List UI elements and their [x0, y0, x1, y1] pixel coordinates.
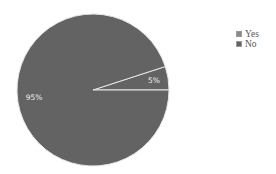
legend: Yes No: [236, 29, 259, 49]
legend-label-yes: Yes: [245, 29, 259, 39]
legend-swatch-yes: [236, 31, 242, 37]
slice-label-yes: 5%: [148, 76, 160, 85]
slice-label-no: 95%: [26, 93, 43, 102]
pie-slices: [17, 14, 169, 166]
pie-chart: 5%95%: [0, 0, 276, 174]
legend-swatch-no: [236, 41, 242, 47]
legend-item-yes: Yes: [236, 29, 259, 39]
pie-slice-no: [17, 14, 169, 166]
legend-label-no: No: [245, 39, 257, 49]
legend-item-no: No: [236, 39, 259, 49]
